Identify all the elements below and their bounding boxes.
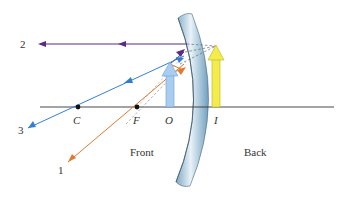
- ray-1-arrowhead-end: [68, 154, 76, 162]
- mirror: [176, 14, 209, 187]
- ray-2-arrowhead-mid: [118, 41, 126, 47]
- region-front-label: Front: [130, 147, 154, 158]
- point-f-dot: [135, 105, 140, 110]
- object-arrow-head: [162, 62, 178, 76]
- ray-label-3: 3: [18, 125, 24, 136]
- object-arrow-shaft: [166, 74, 174, 107]
- image-arrow-shaft: [212, 58, 220, 107]
- ray-2-arrowhead-end: [38, 41, 46, 47]
- label-o: O: [165, 115, 173, 126]
- label-i: I: [214, 115, 218, 126]
- ray-3-arrowhead-mid: [124, 77, 133, 83]
- diagram-canvas: [0, 0, 348, 201]
- image-arrow-head: [208, 45, 224, 60]
- ray-label-1: 1: [58, 165, 64, 176]
- label-c: C: [73, 115, 80, 126]
- ray-diagram: C F O I 2 3 1 Front Back: [0, 0, 348, 201]
- virtual-line-c: [137, 56, 183, 107]
- ray-label-2: 2: [20, 39, 26, 50]
- label-f: F: [133, 115, 140, 126]
- point-c-dot: [76, 105, 81, 110]
- region-back-label: Back: [244, 147, 267, 158]
